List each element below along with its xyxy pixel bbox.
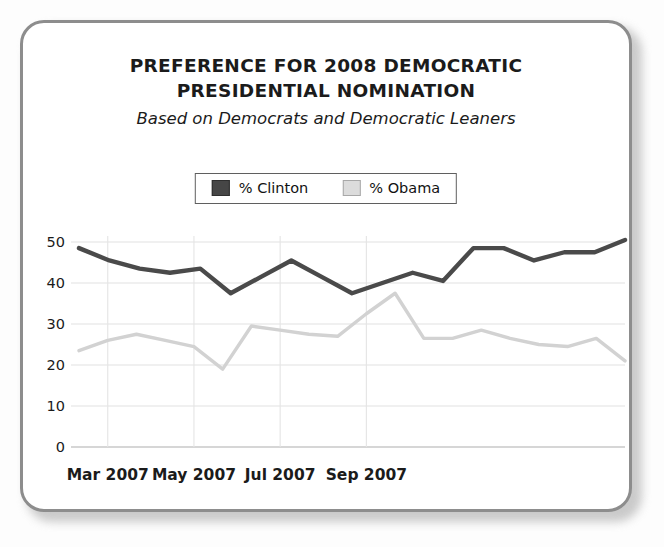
legend-entry-clinton[interactable]: % Clinton <box>212 180 309 196</box>
chart-title-block: PREFERENCE FOR 2008 DEMOCRATIC PRESIDENT… <box>23 53 629 130</box>
chart-title-line-2: PRESIDENTIAL NOMINATION <box>23 78 629 103</box>
legend-entry-obama[interactable]: % Obama <box>342 180 440 196</box>
chart-card: PREFERENCE FOR 2008 DEMOCRATIC PRESIDENT… <box>20 20 632 512</box>
legend-label-clinton: % Clinton <box>239 180 309 196</box>
obama-swatch-icon <box>342 180 360 196</box>
chart-figure: PREFERENCE FOR 2008 DEMOCRATIC PRESIDENT… <box>0 0 664 547</box>
clinton-swatch-icon <box>212 180 230 196</box>
chart-subtitle: Based on Democrats and Democratic Leaner… <box>23 108 629 130</box>
legend-label-obama: % Obama <box>369 180 440 196</box>
chart-title-line-1: PREFERENCE FOR 2008 DEMOCRATIC <box>23 53 629 78</box>
chart-legend: % Clinton % Obama <box>195 173 457 204</box>
